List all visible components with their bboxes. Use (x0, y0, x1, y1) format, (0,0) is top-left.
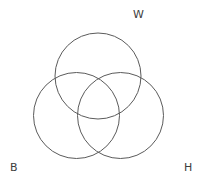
venn-diagram-svg (0, 0, 201, 183)
venn-circle-b (34, 73, 120, 159)
venn-diagram-canvas: W B H (0, 0, 201, 183)
venn-label-b: B (10, 162, 18, 173)
venn-circle-h (78, 73, 164, 159)
venn-circle-w (55, 33, 141, 119)
venn-label-h: H (184, 162, 192, 173)
venn-label-w: W (133, 9, 144, 20)
